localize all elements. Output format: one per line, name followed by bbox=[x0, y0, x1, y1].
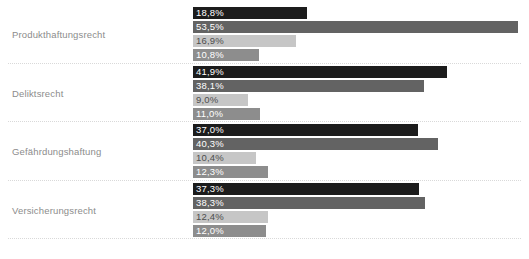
bar-value-label: 40,3% bbox=[196, 138, 224, 150]
category-label: Produkthaftungsrecht bbox=[12, 29, 105, 40]
bar-stack: 37,3%38,3%12,4%12,0% bbox=[193, 183, 529, 237]
group-separator bbox=[8, 238, 521, 240]
bar-row: 41,9% bbox=[193, 66, 529, 78]
bar-value-label: 53,5% bbox=[196, 21, 224, 33]
bar-value-label: 38,1% bbox=[196, 80, 224, 92]
bar-row: 16,9% bbox=[193, 35, 529, 47]
category-group: Versicherungsrecht37,3%38,3%12,4%12,0% bbox=[0, 183, 529, 237]
bar-series-2 bbox=[193, 138, 438, 150]
category-label: Deliktsrecht bbox=[12, 88, 63, 99]
bar-row: 18,8% bbox=[193, 7, 529, 19]
bar-stack: 18,8%53,5%16,9%10,8% bbox=[193, 7, 529, 61]
bar-value-label: 18,8% bbox=[196, 7, 224, 19]
bar-row: 40,3% bbox=[193, 138, 529, 150]
group-separator bbox=[8, 121, 521, 123]
bar-row: 12,0% bbox=[193, 225, 529, 237]
category-label: Gefährdungshaftung bbox=[12, 146, 101, 157]
bar-stack: 41,9%38,1%9,0%11,0% bbox=[193, 66, 529, 120]
group-separator bbox=[8, 63, 521, 65]
bar-row: 12,3% bbox=[193, 166, 529, 178]
bar-value-label: 12,4% bbox=[196, 211, 224, 223]
bar-row: 9,0% bbox=[193, 94, 529, 106]
bar-value-label: 41,9% bbox=[196, 66, 224, 78]
bar-row: 38,1% bbox=[193, 80, 529, 92]
bar-series-2 bbox=[193, 80, 424, 92]
bar-value-label: 38,3% bbox=[196, 197, 224, 209]
bar-series-1 bbox=[193, 66, 447, 78]
bar-value-label: 10,4% bbox=[196, 152, 224, 164]
grouped-bar-chart: Produkthaftungsrecht18,8%53,5%16,9%10,8%… bbox=[0, 0, 529, 259]
bar-row: 37,0% bbox=[193, 124, 529, 136]
bar-value-label: 37,0% bbox=[196, 124, 224, 136]
bar-row: 11,0% bbox=[193, 108, 529, 120]
bar-series-1 bbox=[193, 124, 418, 136]
bar-series-1 bbox=[193, 183, 419, 195]
bar-row: 10,4% bbox=[193, 152, 529, 164]
bar-row: 38,3% bbox=[193, 197, 529, 209]
bar-value-label: 12,0% bbox=[196, 225, 224, 237]
category-group: Produkthaftungsrecht18,8%53,5%16,9%10,8% bbox=[0, 7, 529, 61]
bar-value-label: 9,0% bbox=[196, 94, 218, 106]
category-group: Gefährdungshaftung37,0%40,3%10,4%12,3% bbox=[0, 124, 529, 178]
bar-stack: 37,0%40,3%10,4%12,3% bbox=[193, 124, 529, 178]
bar-series-2 bbox=[193, 21, 518, 33]
bar-row: 37,3% bbox=[193, 183, 529, 195]
bar-value-label: 16,9% bbox=[196, 35, 224, 47]
bar-row: 53,5% bbox=[193, 21, 529, 33]
bar-value-label: 10,8% bbox=[196, 49, 224, 61]
category-group: Deliktsrecht41,9%38,1%9,0%11,0% bbox=[0, 66, 529, 120]
bar-value-label: 11,0% bbox=[196, 108, 223, 120]
group-separator bbox=[8, 180, 521, 182]
bar-series-2 bbox=[193, 197, 425, 209]
bar-row: 12,4% bbox=[193, 211, 529, 223]
bar-value-label: 12,3% bbox=[196, 166, 224, 178]
bar-row: 10,8% bbox=[193, 49, 529, 61]
category-label: Versicherungsrecht bbox=[12, 205, 96, 216]
bar-value-label: 37,3% bbox=[196, 183, 224, 195]
